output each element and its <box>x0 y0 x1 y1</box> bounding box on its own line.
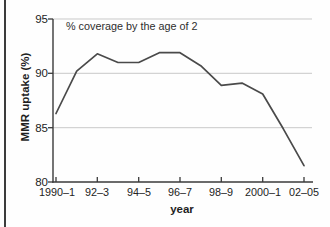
x-tick-label-98-9: 98–9 <box>209 186 233 198</box>
x-axis-title: year <box>170 203 194 215</box>
x-tick-label-94-5: 94–5 <box>127 186 151 198</box>
chart-figure: MMR uptake (%) 95 90 85 80 1990–1 92–3 9… <box>0 0 330 227</box>
x-tick-label-1990-1: 1990–1 <box>39 186 75 198</box>
y-tick-label-95: 95 <box>18 13 48 25</box>
x-tick-label-2000-1: 2000–1 <box>245 186 281 198</box>
chart-annotation: % coverage by the age of 2 <box>66 20 197 32</box>
y-tick-label-90: 90 <box>18 67 48 79</box>
y-tick-label-85: 85 <box>18 122 48 134</box>
x-tick-label-92-3: 92–3 <box>85 186 109 198</box>
x-tick-label-96-7: 96–7 <box>168 186 192 198</box>
x-tick-label-02-05: 02–05 <box>289 186 319 198</box>
y-axis-title: MMR uptake (%) <box>19 41 31 153</box>
